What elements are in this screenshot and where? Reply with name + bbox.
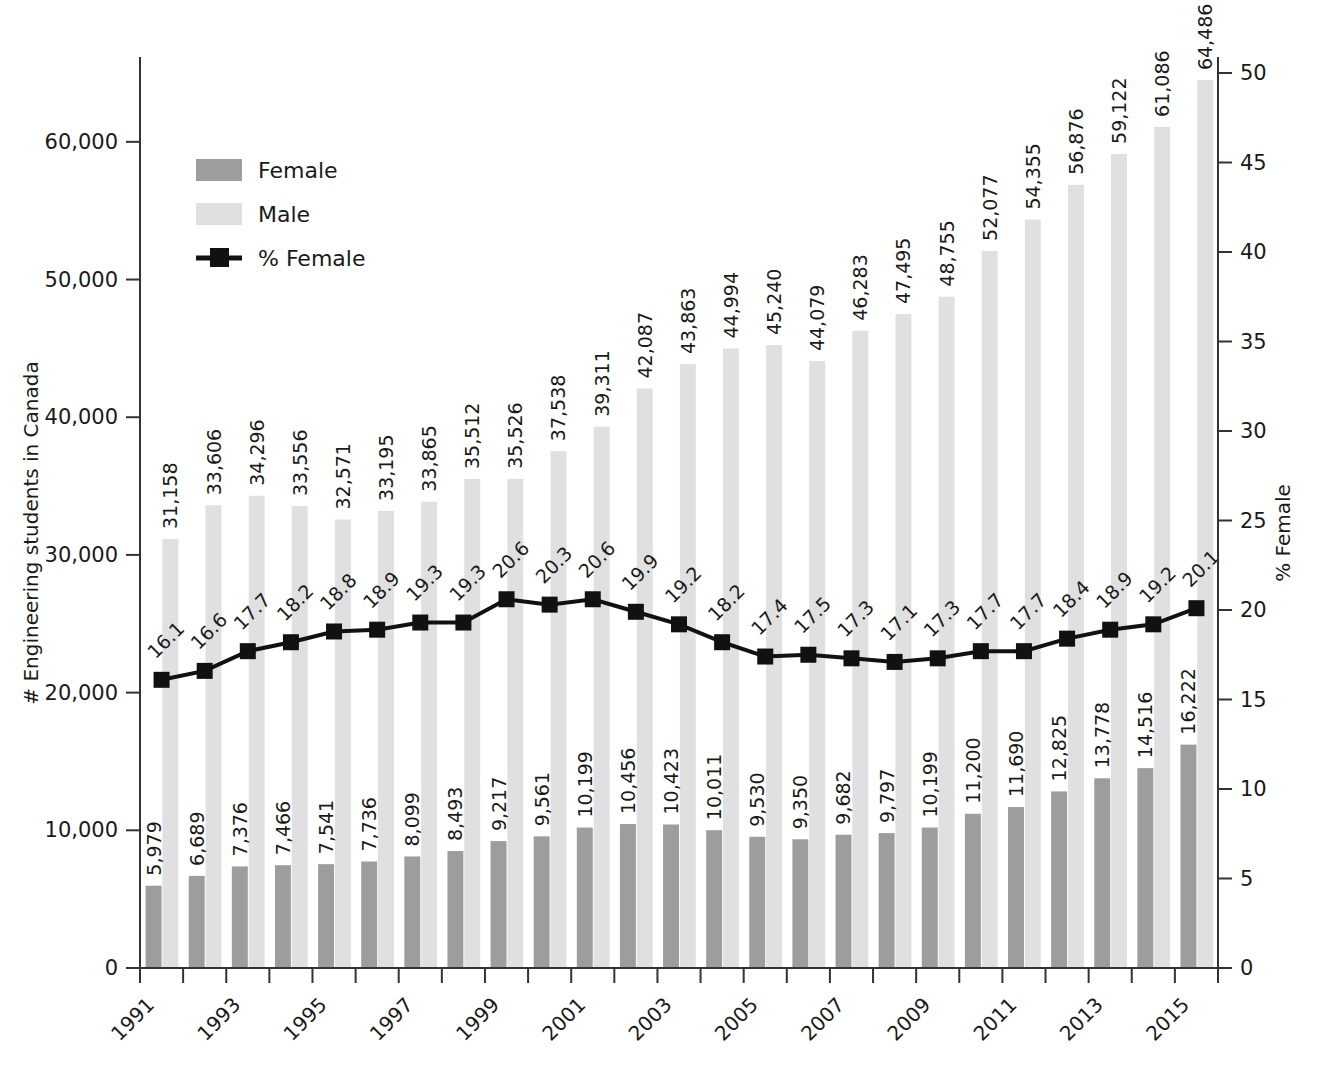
- percent-marker: [1188, 600, 1204, 616]
- bar-label-male: 59,122: [1108, 77, 1130, 143]
- bar-male: [594, 427, 610, 968]
- percent-marker: [412, 615, 428, 631]
- left-axis-tick-label: 50,000: [45, 268, 118, 292]
- x-axis: 1991199319951997199920012003200520072009…: [106, 968, 1218, 1046]
- bar-label-male: 46,283: [849, 254, 871, 320]
- left-axis-tick-label: 30,000: [45, 543, 118, 567]
- percent-marker: [930, 650, 946, 666]
- bar-female: [620, 824, 636, 968]
- right-axis-tick-label: 0: [1240, 956, 1253, 980]
- right-axis-tick-label: 15: [1240, 688, 1267, 712]
- legend-item[interactable]: Female: [196, 158, 338, 183]
- chart-canvas: 5,97931,1586,68933,6067,37634,2967,46633…: [0, 0, 1322, 1069]
- percent-marker: [1145, 616, 1161, 632]
- percent-marker: [973, 643, 989, 659]
- bar-label-male: 37,538: [547, 375, 569, 441]
- percent-marker: [628, 604, 644, 620]
- bar-label-female: 10,199: [574, 751, 596, 817]
- legend-marker: [210, 248, 229, 267]
- bar-male: [895, 314, 911, 968]
- percent-marker: [757, 649, 773, 665]
- right-axis-tick-label: 35: [1240, 330, 1267, 354]
- bar-label-female: 7,466: [272, 801, 294, 855]
- bar-label-male: 43,863: [677, 288, 699, 354]
- percent-marker: [499, 591, 515, 607]
- legend-label: % Female: [258, 246, 365, 271]
- bar-label-female: 16,222: [1177, 668, 1199, 734]
- bar-male: [292, 506, 308, 968]
- bar-label-female: 10,011: [703, 754, 725, 820]
- bar-female: [1180, 745, 1196, 968]
- bar-female: [922, 828, 938, 968]
- bar-female: [1094, 778, 1110, 968]
- bar-female: [404, 856, 420, 968]
- bar-female: [361, 861, 377, 968]
- percent-marker: [843, 650, 859, 666]
- bar-female: [1051, 791, 1067, 968]
- bar-label-male: 48,755: [936, 220, 958, 286]
- bar-label-male: 61,086: [1151, 50, 1173, 116]
- bar-label-male: 34,296: [246, 419, 268, 485]
- percent-marker: [1102, 622, 1118, 638]
- legend-item[interactable]: % Female: [196, 246, 365, 271]
- left-axis: 010,00020,00030,00040,00050,00060,000: [45, 57, 140, 980]
- bar-male: [464, 479, 480, 968]
- left-axis-tick-label: 40,000: [45, 405, 118, 429]
- right-axis-tick-label: 50: [1240, 61, 1267, 85]
- percent-marker: [800, 647, 816, 663]
- right-axis-tick-label: 20: [1240, 598, 1267, 622]
- legend-label: Male: [258, 202, 310, 227]
- percent-marker: [671, 616, 687, 632]
- bar-label-female: 9,797: [876, 769, 898, 823]
- legend-swatch: [196, 203, 242, 225]
- bar-label-female: 13,778: [1091, 702, 1113, 768]
- bar-label-male: 64,486: [1194, 4, 1216, 70]
- legend: FemaleMale% Female: [196, 158, 365, 271]
- bar-female: [1008, 807, 1024, 968]
- percent-marker: [887, 654, 903, 670]
- bar-label-male: 54,355: [1022, 143, 1044, 209]
- bar-label-male: 35,512: [461, 403, 483, 469]
- bar-label-male: 42,087: [634, 312, 656, 378]
- legend-item[interactable]: Male: [196, 202, 310, 227]
- x-axis-year-label: 2007: [796, 993, 849, 1046]
- x-axis-year-label: 2001: [537, 993, 590, 1046]
- bar-female: [275, 865, 291, 968]
- right-axis: 05101520253035404550: [1218, 57, 1267, 980]
- bar-male: [637, 388, 653, 968]
- x-axis-year-label: 2011: [969, 993, 1022, 1046]
- bar-female: [491, 841, 507, 968]
- bar-label-female: 10,423: [660, 748, 682, 814]
- bar-label-female: 7,541: [315, 800, 337, 854]
- x-axis-year-label: 1997: [365, 993, 418, 1046]
- left-axis-tick-label: 60,000: [45, 130, 118, 154]
- bar-label-male: 33,556: [289, 429, 311, 495]
- bar-male: [1197, 80, 1213, 968]
- bar-male: [723, 348, 739, 968]
- bar-female: [836, 835, 852, 968]
- bar-female: [706, 830, 722, 968]
- bar-female: [534, 836, 550, 968]
- bar-label-male: 56,876: [1065, 108, 1087, 174]
- right-axis-tick-label: 30: [1240, 419, 1267, 443]
- bar-female: [447, 851, 463, 968]
- bar-label-female: 11,200: [962, 737, 984, 803]
- bar-label-female: 12,825: [1048, 715, 1070, 781]
- bar-label-male: 33,195: [375, 434, 397, 500]
- x-axis-year-label: 1993: [192, 993, 245, 1046]
- bar-female: [1137, 768, 1153, 968]
- bar-label-male: 35,526: [504, 402, 526, 468]
- bar-label-female: 10,199: [919, 751, 941, 817]
- bar-male: [249, 496, 265, 968]
- bar-label-female: 5,979: [143, 821, 165, 875]
- percent-marker: [455, 615, 471, 631]
- bar-label-male: 45,240: [763, 269, 785, 335]
- bar-male: [1154, 127, 1170, 968]
- bar-male: [809, 361, 825, 968]
- right-axis-tick-label: 40: [1240, 240, 1267, 264]
- x-axis-year-label: 1995: [279, 993, 332, 1046]
- x-axis-year-label: 2003: [624, 993, 677, 1046]
- bar-label-female: 9,530: [746, 772, 768, 826]
- percent-marker: [240, 643, 256, 659]
- x-axis-year-label: 2013: [1055, 993, 1108, 1046]
